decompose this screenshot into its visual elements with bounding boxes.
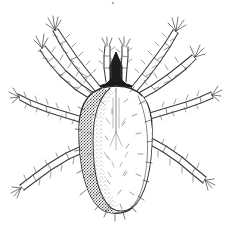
mite-illustration (0, 0, 231, 242)
scan-speck (112, 2, 114, 4)
figure-container (0, 0, 231, 242)
